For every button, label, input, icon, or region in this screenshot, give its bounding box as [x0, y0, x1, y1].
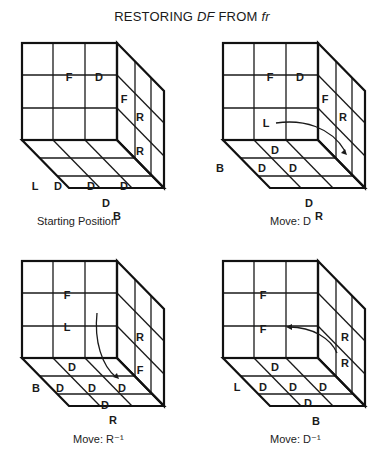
front-face: [22, 43, 117, 140]
face-label: F: [267, 71, 274, 83]
face-label: F: [66, 71, 73, 83]
cube-starting-position: FDFRRLDDDDB: [22, 43, 164, 222]
move-arrow: [289, 327, 337, 353]
face-label: R: [341, 357, 349, 369]
arrowhead-icon: [286, 324, 292, 330]
face-label: D: [54, 180, 62, 192]
face-label: F: [322, 93, 329, 105]
face-label: D: [56, 382, 64, 394]
caption-starting-position: Starting Position: [37, 215, 117, 227]
face-label: D: [120, 180, 128, 192]
face-label: D: [289, 381, 297, 393]
face-label: B: [216, 162, 224, 174]
face-label: D: [95, 71, 103, 83]
face-label: R: [339, 111, 347, 123]
face-label: D: [296, 71, 304, 83]
face-label: L: [64, 321, 71, 333]
caption-move-d-inverse: Move: D⁻¹: [270, 433, 321, 446]
face-label: D: [87, 180, 95, 192]
cube-move-d-inverse: FFRRDLDDDDB: [223, 261, 365, 427]
face-label: F: [260, 323, 267, 335]
move-arrow: [96, 313, 116, 377]
face-label: L: [263, 117, 270, 129]
face-label: D: [68, 361, 76, 373]
face-label: L: [32, 180, 39, 192]
cube-diagrams: FDFRRLDDDDBFDFRLDBDDDRFLRFDBDDDDRFFRRDLD…: [0, 0, 384, 460]
face-label: D: [259, 381, 267, 393]
face-label: F: [260, 289, 267, 301]
face-label: R: [136, 111, 144, 123]
face-label: D: [271, 144, 279, 156]
face-label: R: [109, 414, 117, 426]
face-label: D: [88, 382, 96, 394]
face-label: D: [319, 381, 327, 393]
face-label: D: [258, 162, 266, 174]
face-label: D: [289, 162, 297, 174]
face-label: D: [102, 197, 110, 209]
face-label: L: [234, 381, 241, 393]
front-face: [223, 261, 318, 358]
caption-move-r-inverse: Move: R⁻¹: [73, 433, 124, 446]
front-face: [223, 43, 318, 140]
face-label: D: [305, 197, 313, 209]
face-label: R: [136, 145, 144, 157]
face-label: R: [136, 331, 144, 343]
face-label: F: [64, 289, 71, 301]
face-label: R: [315, 210, 323, 222]
face-label: D: [304, 397, 312, 409]
face-label: D: [118, 382, 126, 394]
cube-move-r-inverse: FLRFDBDDDDR: [22, 261, 164, 426]
face-label: R: [341, 331, 349, 343]
face-label: D: [271, 361, 279, 373]
face-label: D: [101, 399, 109, 411]
face-label: B: [32, 382, 40, 394]
cube-move-d: FDFRLDBDDDR: [216, 43, 365, 222]
front-face: [22, 261, 117, 358]
face-label: B: [312, 415, 320, 427]
caption-move-d: Move: D: [270, 215, 311, 227]
face-label: F: [137, 364, 144, 376]
face-label: F: [121, 93, 128, 105]
